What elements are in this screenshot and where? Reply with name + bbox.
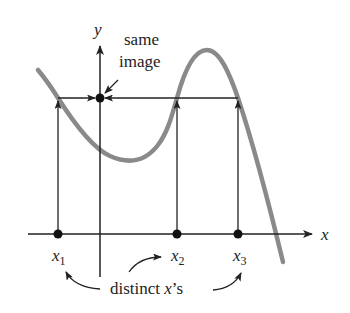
x-axis-label: x xyxy=(320,225,329,244)
y-axis-label: y xyxy=(92,20,102,39)
point-x3 xyxy=(234,230,243,239)
distinct-xs-label: distinct x’s xyxy=(110,279,183,298)
curved-arrow-to-x3 xyxy=(213,273,241,290)
label-x2: x2 xyxy=(170,246,185,268)
function-diagram: y x same image x1 x2 x3 distinct x’s xyxy=(0,0,350,313)
label-x1: x1 xyxy=(51,246,66,268)
same-image-point xyxy=(96,94,105,103)
point-x2 xyxy=(173,230,182,239)
point-x1 xyxy=(54,230,63,239)
same-image-pointer-arrow xyxy=(105,80,118,93)
label-x3: x3 xyxy=(232,246,247,268)
curved-arrow-to-x1 xyxy=(66,272,100,289)
curved-arrow-to-x2 xyxy=(129,257,161,272)
same-image-label-line1: same xyxy=(124,30,159,49)
same-image-label-line2: image xyxy=(119,52,161,71)
function-curve xyxy=(38,50,283,262)
